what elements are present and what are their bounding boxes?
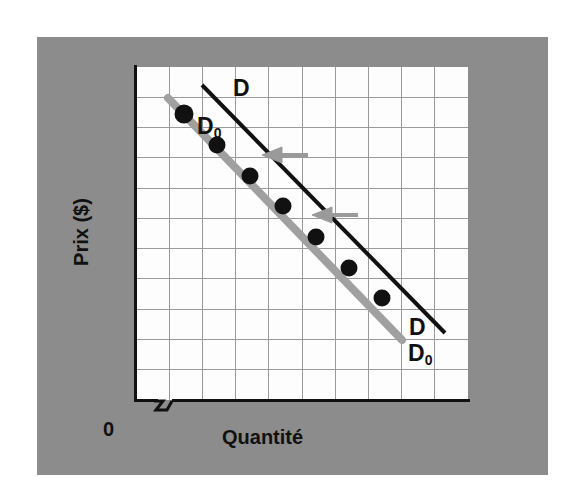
- label-demand-d0-bottom: D0: [408, 342, 432, 365]
- label-d0-bottom-subscript: 0: [425, 352, 433, 368]
- label-d0-bottom-letter: D: [408, 340, 425, 366]
- original-demand-curve-d: [202, 85, 445, 333]
- label-demand-d-bottom: D: [409, 316, 426, 339]
- axis-break-icon: [151, 389, 179, 419]
- label-demand-d-top: D: [233, 77, 250, 100]
- x-axis-title: Quantité: [222, 427, 303, 447]
- label-d0-top-letter: D: [197, 113, 214, 139]
- y-axis-line: [134, 65, 137, 402]
- shift-arrow-upper: [262, 147, 308, 163]
- y-axis-title: Prix ($): [71, 172, 91, 292]
- label-d0-top-subscript: 0: [214, 125, 222, 141]
- x-axis-line-right: [172, 399, 470, 402]
- figure-panel: D D0 D D0 Prix ($) Quantité 0: [37, 37, 548, 475]
- origin-label: 0: [103, 419, 114, 439]
- label-demand-d0-top: D0: [197, 115, 221, 138]
